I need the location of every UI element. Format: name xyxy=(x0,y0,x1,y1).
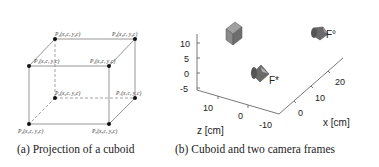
cuboid-projection-diagram: P₂(x₂c, y₂c) P₃(x₃c, y₃c) P₁(x₁c, y₁c) P… xyxy=(0,0,190,167)
label-p6: P₆(x₆c, y₆c) xyxy=(54,90,80,97)
x-tick-0: 0 xyxy=(298,108,303,118)
y-tick-10: 10 xyxy=(180,39,190,49)
x-tick-20: 20 xyxy=(335,77,345,87)
caption-a: (a) Projection of a cuboid xyxy=(17,143,135,155)
vertex-p3 xyxy=(133,37,137,41)
x-tick-10: 10 xyxy=(315,93,325,103)
label-p7: P₇(x₇c, y₇c) xyxy=(115,90,141,97)
z-tick-minus10: -10 xyxy=(259,120,272,130)
caption-b: (b) Cuboid and two camera frames xyxy=(175,143,335,155)
camera-frame-f-star-icon xyxy=(251,65,269,82)
y-tick-5: 5 xyxy=(184,54,189,64)
vertex-p7 xyxy=(133,96,137,100)
z-axis-label: z [cm] xyxy=(197,125,224,136)
vertex-p5 xyxy=(27,122,31,126)
label-p1: P₁(x₁c, y₁c) xyxy=(33,58,59,65)
z-tick-0: 0 xyxy=(238,111,243,121)
cuboid-icon xyxy=(226,22,242,45)
z-tick-10: 10 xyxy=(203,103,213,113)
x-axis-label: x [cm] xyxy=(323,117,350,128)
label-p4: P₄(x₄c, y₄c) xyxy=(89,58,115,65)
label-f-star: F* xyxy=(269,75,279,86)
y-tick-minus5: -5 xyxy=(180,84,188,94)
label-p3: P₃(x₃c, y₃c) xyxy=(111,31,137,38)
label-f-circle: F° xyxy=(326,29,336,40)
panel-cuboid-projection: P₂(x₂c, y₂c) P₃(x₃c, y₃c) P₁(x₁c, y₁c) P… xyxy=(0,0,190,167)
y-tick-0: 0 xyxy=(184,69,189,79)
vertex-p1 xyxy=(27,64,31,68)
label-p8: P₈(x₈c, y₈c) xyxy=(91,128,117,135)
label-p5: P₅(x₅c, y₅c) xyxy=(17,128,43,135)
vertex-p8 xyxy=(107,122,111,126)
vertex-p2 xyxy=(53,37,57,41)
vertex-p6 xyxy=(53,96,57,100)
panel-cuboid-cameras: 10 5 0 -5 y [cm] 10 0 -10 z [cm] 0 10 20… xyxy=(180,0,379,167)
cuboid-camera-3d-plot: 10 5 0 -5 y [cm] 10 0 -10 z [cm] 0 10 20… xyxy=(180,0,379,167)
label-p2: P₂(x₂c, y₂c) xyxy=(54,31,80,38)
vertex-p4 xyxy=(107,64,111,68)
